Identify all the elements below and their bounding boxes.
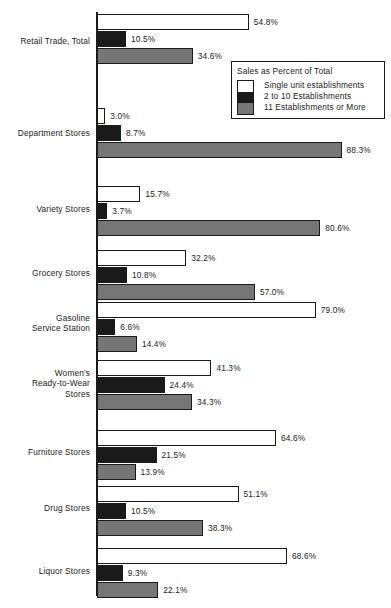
bar-white — [97, 430, 276, 446]
category-label-line: Stores — [0, 389, 90, 399]
legend-title: Sales as Percent of Total — [232, 66, 384, 80]
bar-value-label: 10.8% — [132, 268, 156, 282]
bar-white — [97, 108, 105, 124]
category-label: Grocery Stores — [0, 268, 90, 278]
category-label-line: Retail Trade, Total — [0, 36, 90, 46]
bar-value-label: 13.9% — [141, 465, 165, 479]
bar-value-label: 51.1% — [244, 487, 268, 501]
category-label-line: Ready-to-Wear — [0, 378, 90, 388]
category-label-line: Women's — [0, 368, 90, 378]
bar-black — [97, 319, 115, 335]
category-label-line: Department Stores — [0, 128, 90, 138]
bar-value-label: 32.2% — [191, 251, 215, 265]
bar-chart: Retail Trade, Total54.8%10.5%34.6%Depart… — [0, 0, 391, 608]
chart-legend: Sales as Percent of Total Single unit es… — [231, 61, 385, 119]
category-label-line: Variety Stores — [0, 204, 90, 214]
category-label-line: Grocery Stores — [0, 268, 90, 278]
category-label-line: Service Station — [0, 323, 90, 333]
legend-item-11-or-more: 11 Establishments or More — [237, 102, 384, 113]
bar-gray — [97, 394, 192, 410]
bar-gray — [97, 284, 255, 300]
bar-value-label: 57.0% — [260, 285, 284, 299]
bar-value-label: 22.1% — [163, 583, 187, 597]
bar-black — [97, 203, 107, 219]
bar-black — [97, 565, 123, 581]
bar-value-label: 64.6% — [281, 431, 305, 445]
category-label: Furniture Stores — [0, 447, 90, 457]
bar-white — [97, 548, 287, 564]
bar-black — [97, 125, 121, 141]
bar-value-label: 6.6% — [120, 320, 140, 334]
category-label: Retail Trade, Total — [0, 36, 90, 46]
bar-white — [97, 486, 239, 502]
bar-value-label: 88.3% — [347, 143, 371, 157]
category-label-line: Drug Stores — [0, 503, 90, 513]
legend-rows: Single unit establishments 2 to 10 Estab… — [232, 80, 384, 113]
bar-value-label: 79.0% — [321, 303, 345, 317]
category-label: Liquor Stores — [0, 566, 90, 576]
bar-value-label: 34.6% — [198, 49, 222, 63]
bar-white — [97, 360, 211, 376]
bar-gray — [97, 336, 137, 352]
bar-value-label: 24.4% — [170, 378, 194, 392]
legend-swatch-2-to-10 — [238, 92, 253, 103]
bar-value-label: 10.5% — [131, 504, 155, 518]
category-label-line: Furniture Stores — [0, 447, 90, 457]
bar-value-label: 80.6% — [325, 221, 349, 235]
bar-white — [97, 186, 140, 202]
bar-value-label: 9.3% — [128, 566, 148, 580]
category-label: Women'sReady-to-WearStores — [0, 368, 90, 399]
bar-black — [97, 377, 165, 393]
category-label: GasolineService Station — [0, 313, 90, 334]
bar-value-label: 41.3% — [216, 361, 240, 375]
bar-value-label: 68.6% — [292, 549, 316, 563]
category-label: Department Stores — [0, 128, 90, 138]
bar-value-label: 8.7% — [126, 126, 146, 140]
category-label: Variety Stores — [0, 204, 90, 214]
bar-white — [97, 14, 249, 30]
bar-value-label: 21.5% — [162, 448, 186, 462]
category-label-line: Gasoline — [0, 313, 90, 323]
bar-value-label: 10.5% — [131, 32, 155, 46]
bar-white — [97, 250, 186, 266]
bar-value-label: 14.4% — [142, 337, 166, 351]
category-label-line: Liquor Stores — [0, 566, 90, 576]
bar-white — [97, 302, 316, 318]
bar-black — [97, 503, 126, 519]
bar-gray — [97, 520, 203, 536]
legend-item-2-to-10: 2 to 10 Establishments — [237, 91, 384, 102]
legend-swatch-stack — [237, 80, 254, 115]
bar-value-label: 3.7% — [112, 204, 132, 218]
bar-gray — [97, 48, 193, 64]
bar-black — [97, 267, 127, 283]
legend-swatch-single-unit — [238, 81, 253, 92]
category-label: Drug Stores — [0, 503, 90, 513]
legend-item-single-unit: Single unit establishments — [237, 80, 384, 91]
bar-value-label: 15.7% — [145, 187, 169, 201]
bar-value-label: 38.3% — [208, 521, 232, 535]
bar-gray — [97, 464, 136, 480]
bar-value-label: 3.0% — [110, 109, 130, 123]
bar-value-label: 34.3% — [197, 395, 221, 409]
bar-gray — [97, 142, 342, 158]
legend-swatch-11-or-more — [238, 103, 253, 114]
bar-black — [97, 31, 126, 47]
bar-gray — [97, 220, 320, 236]
bar-value-label: 54.8% — [254, 15, 278, 29]
bar-gray — [97, 582, 158, 598]
bar-black — [97, 447, 157, 463]
